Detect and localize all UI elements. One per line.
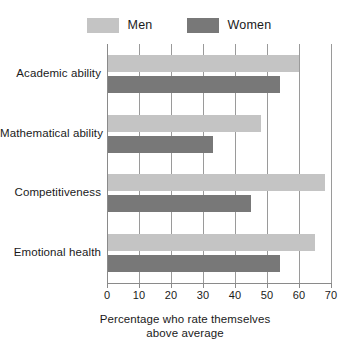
- bar-women-academic-ability: [108, 76, 280, 93]
- x-tick-label: 40: [222, 290, 248, 301]
- tickmark-60: [299, 283, 300, 288]
- tickmark-40: [235, 283, 236, 288]
- tickmark-50: [267, 283, 268, 288]
- x-tick-label: 20: [158, 290, 184, 301]
- category-axis-labels: Academic abilityMathematical abilityComp…: [0, 44, 101, 283]
- bar-women-competitiveness: [108, 195, 251, 212]
- x-axis-title: Percentage who rate themselves above ave…: [40, 312, 330, 340]
- bar-women-emotional-health: [108, 255, 280, 272]
- x-tick-label: 30: [190, 290, 216, 301]
- tickmark-20: [171, 283, 172, 288]
- plot-area: [107, 44, 331, 283]
- bar-men-emotional-health: [108, 234, 315, 251]
- x-tick-label: 10: [126, 290, 152, 301]
- category-label: Mathematical ability: [0, 128, 101, 140]
- legend-entry-women: Women: [187, 18, 272, 33]
- bar-chart: Men Women Academic abilityMathematical a…: [0, 0, 358, 351]
- gridline-70: [331, 44, 332, 283]
- legend-entry-men: Men: [87, 18, 153, 33]
- bar-men-mathematical-ability: [108, 115, 261, 132]
- x-tick-label: 60: [286, 290, 312, 301]
- x-axis-title-line2: above average: [40, 326, 330, 340]
- bar-men-academic-ability: [108, 55, 299, 72]
- legend-label-women: Women: [228, 19, 272, 32]
- tickmark-10: [139, 283, 140, 288]
- legend-swatch-women: [187, 18, 219, 33]
- bar-women-mathematical-ability: [108, 136, 213, 153]
- legend-swatch-men: [87, 18, 119, 33]
- category-label: Academic ability: [0, 68, 101, 80]
- x-tick-label: 50: [254, 290, 280, 301]
- tickmark-30: [203, 283, 204, 288]
- x-axis-title-line1: Percentage who rate themselves: [40, 312, 330, 326]
- tickmark-0: [107, 283, 108, 288]
- bar-men-competitiveness: [108, 174, 325, 191]
- category-label: Emotional health: [0, 247, 101, 259]
- chart-legend: Men Women: [0, 14, 358, 36]
- legend-label-men: Men: [128, 19, 153, 32]
- category-label: Competitiveness: [0, 187, 101, 199]
- x-tick-label: 0: [94, 290, 120, 301]
- tickmark-70: [331, 283, 332, 288]
- x-tick-label: 70: [318, 290, 344, 301]
